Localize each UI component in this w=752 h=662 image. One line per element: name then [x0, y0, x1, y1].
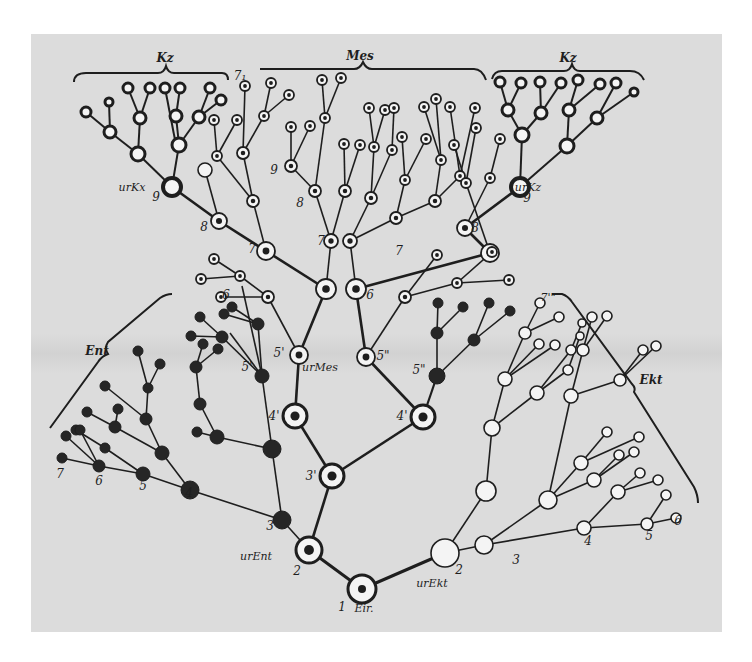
node-label: 9 [523, 191, 531, 205]
kz-cell-node [630, 88, 638, 96]
ekt-cell-node [539, 491, 557, 509]
brace-mes [260, 62, 486, 80]
ekt-cell-node [653, 475, 663, 485]
kz-cell-node [172, 138, 186, 152]
ent-cell-node [273, 511, 291, 529]
ekt-cell-node [554, 312, 564, 322]
ekt-cell-node [661, 490, 671, 500]
ent-cell-node [468, 334, 480, 346]
ekt-cell-node [587, 312, 597, 322]
node-label: 3 [512, 553, 520, 567]
ent-cell-node [505, 306, 515, 316]
node-label: 1 [338, 600, 346, 614]
ent-cell-node [195, 312, 205, 322]
ent-cell-node [210, 430, 224, 444]
ekt-cell-node [564, 389, 578, 403]
ent-cell-node [82, 407, 92, 417]
node-label: 5" [412, 363, 425, 377]
node-label: 5' [242, 360, 253, 374]
node-label: 4' [268, 409, 280, 423]
ekt-cell-node [534, 339, 544, 349]
node-label: 3 [266, 519, 274, 533]
ent-cell-node [109, 421, 121, 433]
ent-cell-node [431, 327, 443, 339]
kz-cell-node [205, 83, 215, 93]
kz-cell-node [515, 128, 529, 142]
ent-cell-node [140, 413, 152, 425]
kz-cell-node [175, 83, 185, 93]
urKx-node [163, 178, 181, 196]
ekt-cell-node [587, 473, 601, 487]
ekt-cell-node [530, 386, 544, 400]
node-label: 4' [396, 409, 408, 423]
node-label: 5 [139, 479, 147, 493]
kz-cell-node [595, 79, 605, 89]
ent-cell-node [113, 404, 123, 414]
ent-cell-node [255, 369, 269, 383]
group-braces [50, 62, 698, 503]
lineage-tree-diagram: KzMesKzEntEkt1Eir.2urEnt2urEkt333'44'4'4… [0, 0, 752, 662]
kz-cell-node [535, 107, 547, 119]
cell-node [198, 163, 212, 177]
ekt-cell-node [602, 311, 612, 321]
ent-cell-node [433, 298, 443, 308]
node-label: 8 [296, 196, 304, 210]
node-label: 7 [248, 242, 256, 256]
kz-cell-node [145, 83, 155, 93]
ekt-cell-node [475, 536, 493, 554]
kz-cell-node [134, 112, 146, 124]
kz-cell-node [104, 126, 116, 138]
kz-cell-node [560, 139, 574, 153]
node-label: 7 [317, 234, 325, 248]
ent-cell-node [57, 453, 67, 463]
kz-cell-node [123, 83, 133, 93]
kz-cell-node [81, 107, 91, 117]
kz-cell-node [611, 78, 621, 88]
kz-cell-node [131, 147, 145, 161]
node-label: 6 [366, 288, 374, 302]
group-label-ekt: Ekt [638, 373, 662, 387]
kz-cell-node [535, 77, 545, 87]
brace-ent [50, 294, 172, 428]
node-label: 2 [292, 564, 301, 578]
ekt-cell-node [566, 345, 576, 355]
group-label-kz-left: Kz [155, 51, 174, 65]
ent-cell-node [100, 381, 110, 391]
ent-cell-node [252, 318, 264, 330]
ent-cell-node [429, 368, 445, 384]
ekt-cell-node [578, 319, 586, 327]
node-label: 4 [583, 534, 592, 548]
ekt-cell-node [634, 432, 644, 442]
ent-cell-node [93, 460, 105, 472]
kz-cell-node [105, 98, 113, 106]
ekt-cell-node [577, 521, 591, 535]
ekt-cell-node [602, 427, 612, 437]
ent-cell-node [458, 302, 468, 312]
ent-cell-node [194, 398, 206, 410]
node-label: urEnt [240, 550, 272, 563]
node-label: 4 [184, 486, 193, 500]
node-label: 9 [152, 190, 160, 204]
node-label: 7₁ [234, 69, 246, 83]
ent-cell-node [227, 302, 237, 312]
node-label: 8 [471, 221, 479, 235]
kz-cell-node [160, 83, 170, 93]
ent-cell-node [484, 298, 494, 308]
tree-nodes [57, 73, 681, 603]
node-label: Eir. [353, 602, 373, 615]
ent-cell-node [155, 359, 165, 369]
ekt-cell-node [638, 345, 648, 355]
ent-cell-node [61, 431, 71, 441]
kz-cell-node [516, 78, 526, 88]
node-label: 6 [95, 474, 103, 488]
node-label: 2 [454, 563, 463, 577]
ekt-cell-node [563, 365, 573, 375]
kz-cell-node [170, 110, 182, 122]
ent-cell-node [186, 331, 196, 341]
node-label: urEkt [416, 577, 448, 590]
ekt-cell-node [484, 420, 500, 436]
ekt-cell-node [574, 456, 588, 470]
node-label: 7 [395, 244, 403, 258]
ekt-cell-node [498, 372, 512, 386]
ekt-cell-node [651, 341, 661, 351]
